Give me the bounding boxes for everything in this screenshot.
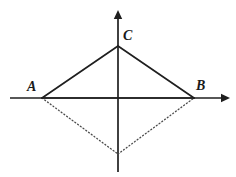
vertex-label-a: A [27, 80, 36, 94]
vertex-label-b: B [196, 79, 205, 93]
vertical-axis-arrow-icon [114, 10, 122, 19]
horizontal-axis-arrow-icon [221, 94, 230, 102]
segment-DB [118, 98, 194, 154]
segment-AD [42, 98, 118, 154]
segment-AC [42, 46, 118, 98]
segment-CB [118, 46, 194, 98]
geometry-figure: A B C [0, 0, 236, 177]
vertex-label-c: C [123, 29, 132, 43]
